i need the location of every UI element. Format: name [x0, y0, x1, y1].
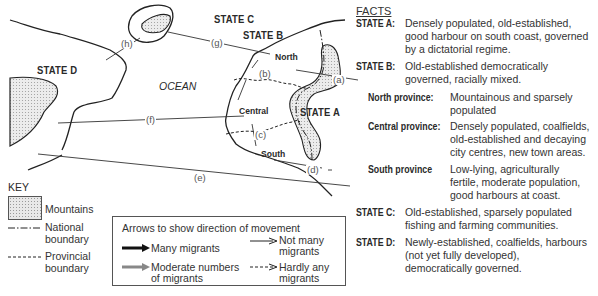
many-migrants-label: Many migrants — [151, 242, 220, 254]
fact-line: Mountainous and sparsely — [450, 91, 573, 104]
fact-line: by a dictatorial regime. — [405, 43, 588, 56]
fact-key-north-province: North province: — [368, 92, 434, 103]
fact-key-state-d: STATE D: — [356, 237, 395, 248]
route-label-g: (g) — [210, 38, 224, 48]
key-national-boundary-line1: National — [45, 221, 84, 233]
fact-key-state-c: STATE C: — [356, 207, 395, 218]
fact-line: Old-established democratically — [405, 60, 548, 73]
ocean-label: OCEAN — [159, 80, 196, 92]
fact-line: democratically governed. — [405, 262, 587, 275]
fact-line: Densely populated, coalfields, — [450, 120, 590, 133]
route-label-f: (f) — [145, 115, 156, 125]
state-a-mountains — [290, 45, 341, 160]
route-label-c: (c) — [254, 130, 267, 140]
state-b-label: STATE B — [243, 29, 283, 41]
fact-line: populated — [450, 104, 573, 117]
key-national-boundary-line2: boundary — [45, 233, 89, 245]
moderate-migrants-arrow-icon — [122, 263, 150, 271]
state-d-mountains — [10, 77, 58, 146]
route-label-e: (e) — [193, 173, 207, 183]
state-c-label: STATE C — [214, 13, 254, 25]
fact-line: Low-lying, agriculturally — [450, 163, 580, 176]
fact-text-central-province: Densely populated, coalfields, old-estab… — [450, 120, 590, 159]
fact-line: good harbour on south coast, governed — [405, 30, 588, 43]
arrows-legend: Arrows to show direction of movement Man… — [112, 216, 346, 286]
state-a-label: STATE A — [300, 106, 340, 118]
arrows-legend-heading: Arrows to show direction of movement — [122, 222, 300, 234]
fact-key-state-a: STATE A: — [356, 18, 395, 29]
province-north-label: North — [275, 51, 298, 62]
route-label-h: (h) — [120, 39, 134, 49]
fact-text-south-province: Low-lying, agriculturally fertile, moder… — [450, 163, 580, 202]
route-line-b — [252, 60, 258, 68]
fact-line: Newly-established, coalfields, harbours — [405, 236, 587, 249]
fact-line: Old-established, sparsely populated — [405, 206, 572, 219]
province-central-label: Central — [239, 105, 268, 116]
fact-line: city centres, new town areas. — [450, 146, 590, 159]
province-south-label: South — [261, 148, 285, 159]
fact-text-north-province: Mountainous and sparsely populated — [450, 91, 573, 117]
fact-text-state-b: Old-established democratically governed,… — [405, 60, 548, 86]
state-d-label: STATE D — [37, 64, 77, 76]
key-provincial-boundary-line1: Provincial — [45, 250, 91, 262]
provincial-boundary-swatch — [8, 254, 42, 260]
fact-text-state-d: Newly-established, coalfields, harbours … — [405, 236, 587, 275]
fact-line: old-established and decaying — [450, 133, 590, 146]
key-provincial-boundary-line2: boundary — [45, 262, 89, 274]
fact-key-central-province: Central province: — [368, 121, 440, 132]
route-label-a: (a) — [332, 75, 346, 85]
route-label-d: (d) — [306, 165, 320, 175]
fact-line: good harbours at coast. — [450, 189, 580, 202]
fact-line: fishing and farming communities. — [405, 219, 572, 232]
fact-line: governed, racially mixed. — [405, 73, 548, 86]
facts-title: FACTS — [356, 5, 391, 17]
hardly-any-migrants-arrow-icon — [250, 263, 278, 271]
many-migrants-arrow-icon — [122, 244, 150, 252]
fact-line: (not yet fully developed), — [405, 249, 587, 262]
fact-text-state-a: Densely populated, old-established, good… — [405, 17, 588, 56]
key-title: KEY — [8, 181, 29, 193]
not-many-migrants-label-line2: migrants — [279, 245, 319, 257]
fact-text-state-c: Old-established, sparsely populated fish… — [405, 206, 572, 232]
fact-key-south-province: South province — [368, 164, 432, 175]
route-label-b: (b) — [258, 69, 272, 79]
mountains-swatch — [8, 196, 42, 220]
fact-line: Densely populated, old-established, — [405, 17, 588, 30]
hardly-any-migrants-label-line2: migrants — [279, 272, 319, 284]
route-line-b2 — [238, 80, 246, 100]
not-many-migrants-arrow-icon — [250, 237, 278, 245]
moderate-migrants-label-line2: of migrants — [151, 272, 203, 284]
national-boundary-swatch — [8, 225, 42, 231]
fact-key-state-b: STATE B: — [356, 61, 395, 72]
key-mountains-label: Mountains — [45, 203, 93, 215]
fact-line: fertile, moderate population, — [450, 176, 580, 189]
state-d-lower-coast — [28, 155, 62, 170]
